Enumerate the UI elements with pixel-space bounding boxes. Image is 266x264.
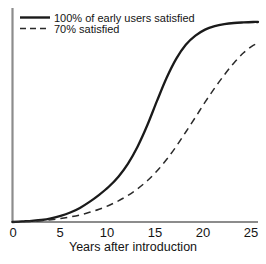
x-tick-label-1: 5 [47,226,73,240]
x-tick-label-0: 0 [0,226,26,240]
x-axis-title: Years after introduction [0,240,266,254]
x-tick-label-4: 20 [190,226,216,240]
chart-plot-area [0,0,266,264]
x-tick-label-2: 10 [94,226,120,240]
x-tick-label-3: 15 [142,226,168,240]
series-line-70-percent [13,44,259,222]
adoption-curve-chart: 100% of early users satisfied 70% satisf… [0,0,266,264]
series-line-100-percent [13,22,259,222]
x-tick-label-5: 25 [238,226,264,240]
legend-label-1: 70% satisfied [54,23,119,35]
